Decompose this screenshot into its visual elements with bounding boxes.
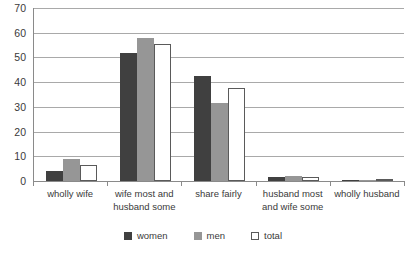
legend-swatch-women-icon <box>124 232 132 240</box>
bar-group <box>330 8 404 181</box>
x-axis-label-line: and wife some <box>257 201 329 214</box>
bar-women[interactable] <box>194 76 211 181</box>
x-axis-label-line: wife most and <box>108 188 180 201</box>
grouped-bar-chart: 706050403020100 wholly wifewife most and… <box>0 0 406 258</box>
legend-item-women[interactable]: women <box>124 231 168 241</box>
legend-item-total[interactable]: total <box>251 231 282 241</box>
y-tick-label: 40 <box>14 77 26 88</box>
bar-total[interactable] <box>154 44 171 181</box>
legend-label: women <box>137 231 168 241</box>
x-axis-label: wholly husband <box>330 188 404 222</box>
y-tick-label: 70 <box>14 3 26 14</box>
x-tick <box>107 181 108 186</box>
x-axis-label: share fairly <box>181 188 255 222</box>
y-tick-label: 20 <box>14 126 26 137</box>
bar-men[interactable] <box>211 103 228 181</box>
y-tick-label: 10 <box>14 151 26 162</box>
x-tick <box>181 181 182 186</box>
plot-area <box>33 8 404 182</box>
x-axis-label-line: wholly husband <box>331 188 403 201</box>
bar-total[interactable] <box>80 165 97 181</box>
bar-men[interactable] <box>63 159 80 181</box>
bar-group <box>182 8 256 181</box>
x-tick <box>404 181 405 186</box>
plot-wrapper: 706050403020100 wholly wifewife most and… <box>0 0 406 192</box>
x-axis-ticks <box>33 181 404 186</box>
y-tick-label: 60 <box>14 27 26 38</box>
y-tick-label: 30 <box>14 102 26 113</box>
x-axis-label: husband mostand wife some <box>256 188 330 222</box>
legend-swatch-total-icon <box>251 232 259 240</box>
x-tick <box>330 181 331 186</box>
x-axis-label-line: husband some <box>108 201 180 214</box>
x-axis-label: wife most andhusband some <box>107 188 181 222</box>
bar-total[interactable] <box>228 88 245 181</box>
legend-label: total <box>264 231 282 241</box>
bar-men[interactable] <box>137 38 154 181</box>
bars-layer <box>34 8 404 181</box>
legend-label: men <box>207 231 225 241</box>
bar-group <box>256 8 330 181</box>
y-tick-label: 0 <box>20 176 26 187</box>
bar-women[interactable] <box>120 53 137 182</box>
bar-group <box>108 8 182 181</box>
chart-legend: womenmentotal <box>0 228 406 244</box>
x-axis-labels: wholly wifewife most andhusband someshar… <box>33 188 404 222</box>
x-axis-label-line: wholly wife <box>34 188 106 201</box>
y-axis: 706050403020100 <box>0 0 30 192</box>
x-tick <box>256 181 257 186</box>
legend-item-men[interactable]: men <box>194 231 225 241</box>
x-axis-label-line: husband most <box>257 188 329 201</box>
x-tick <box>33 181 34 186</box>
legend-swatch-men-icon <box>194 232 202 240</box>
y-tick-label: 50 <box>14 52 26 63</box>
bar-group <box>34 8 108 181</box>
x-axis-label-line: share fairly <box>182 188 254 201</box>
bar-women[interactable] <box>46 171 63 181</box>
x-axis-label: wholly wife <box>33 188 107 222</box>
